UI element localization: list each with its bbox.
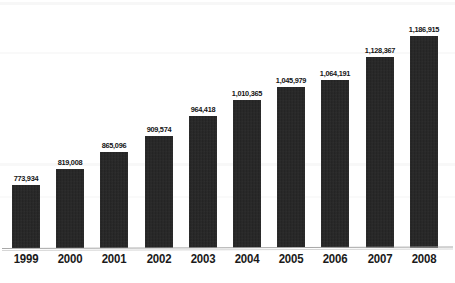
bar-value-label: 1,064,191: [310, 69, 362, 78]
bar-group: 1,010,365: [233, 100, 261, 249]
bar-value-label: 819,008: [44, 158, 96, 167]
bar-group: 964,418: [189, 116, 217, 248]
x-axis-tick-label: 2008: [403, 252, 445, 266]
x-axis-shadow: [2, 249, 453, 251]
x-axis-tick-label: 2002: [138, 252, 180, 266]
x-axis-tick-label: 2000: [49, 252, 91, 266]
bar-chart: 773,934 819,008 865,096 909,574 964,418 …: [0, 0, 455, 283]
bar: [56, 169, 84, 248]
bar-group: 773,934: [12, 185, 40, 248]
bar: [145, 136, 173, 248]
bar: [233, 100, 261, 249]
bar-group: 865,096: [100, 152, 128, 248]
x-axis-tick-label: 2005: [270, 252, 312, 266]
x-axis-labels: 1999 2000 2001 2002 2003 2004 2005 2006 …: [0, 252, 455, 276]
bar: [12, 185, 40, 248]
bar-group: 1,064,191: [321, 80, 349, 248]
bar: [321, 80, 349, 248]
bar: [277, 87, 305, 248]
bar-value-label: 1,186,915: [398, 25, 450, 34]
bar-value-label: 964,418: [177, 105, 229, 114]
x-axis-tick-label: 2004: [226, 252, 268, 266]
bar-value-label: 1,128,367: [354, 46, 406, 55]
x-axis-tick-label: 2001: [93, 252, 135, 266]
bar: [366, 57, 394, 248]
bar-group: 909,574: [145, 136, 173, 248]
bar-value-label: 909,574: [133, 125, 185, 134]
x-axis-tick-label: 2006: [314, 252, 356, 266]
bar-group: 819,008: [56, 169, 84, 248]
plot-area: 773,934 819,008 865,096 909,574 964,418 …: [0, 0, 455, 250]
bar: [189, 116, 217, 248]
bar-value-label: 1,010,365: [221, 89, 273, 98]
x-axis-tick-label: 1999: [5, 252, 47, 266]
bar-value-label: 865,096: [89, 141, 141, 150]
x-axis-tick-label: 2007: [359, 252, 401, 266]
bar: [100, 152, 128, 248]
bar: [410, 36, 438, 248]
bar-value-label: 773,934: [0, 174, 52, 183]
x-axis-tick-label: 2003: [182, 252, 224, 266]
bar-group: 1,186,915: [410, 36, 438, 248]
bar-group: 1,045,979: [277, 87, 305, 248]
bar-group: 1,128,367: [366, 57, 394, 248]
